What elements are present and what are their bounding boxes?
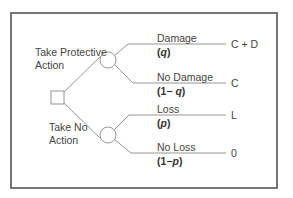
outcome-prob-damage: (q) [157,46,170,58]
branch-label-no-action-line2: Action [49,134,78,146]
edge-protective-action [64,55,102,92]
outcome-event-loss: Loss [157,103,179,115]
outcome-event-no-loss: No Loss [157,141,196,153]
edge-loss [114,115,129,130]
payoff-no-damage: C [231,77,239,89]
edge-no-loss [114,139,131,153]
outcome-prob-no-loss: (1−p) [157,155,182,167]
branch-label-no-action-line1: Take No [49,121,88,133]
outcome-event-damage: Damage [157,32,197,44]
edge-damage [114,44,128,56]
outcome-prob-no-damage: (1− q) [157,85,185,97]
branch-label-protective-line1: Take Protective [35,46,107,58]
decision-node-square [51,91,64,104]
payoff-no-loss: 0 [231,147,237,159]
outcome-prob-loss: (p) [157,117,170,129]
outcome-event-no-damage: No Damage [157,71,213,83]
chance-node-no-action [100,127,116,143]
decision-tree-diagram: Take Protective Action Take No Action Da… [0,0,293,198]
payoff-damage: C + D [231,38,259,50]
branch-label-protective-line2: Action [35,59,64,71]
payoff-loss: L [231,109,237,121]
edge-no-damage [114,64,133,83]
